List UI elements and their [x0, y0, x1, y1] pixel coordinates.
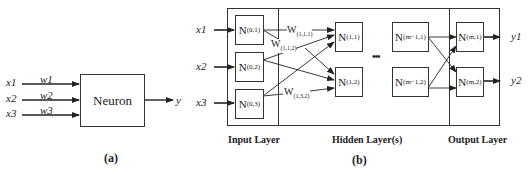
weight-w132: W(1,3,2) [284, 87, 309, 101]
node-n03: N(0,3) [235, 89, 264, 119]
node-n12: N(1,2) [335, 67, 363, 97]
weight-w112: W(1,1,2) [271, 39, 296, 53]
input-label-x3: x3 [6, 108, 16, 119]
neuron-label: Neuron [93, 93, 132, 109]
input-label-x1-b: x1 [196, 24, 206, 35]
node-n02: N(0,2) [235, 52, 264, 82]
label-output-layer: Output Layer [448, 134, 507, 145]
node-n01: N(0,1) [235, 15, 264, 45]
output-label-y2: y2 [511, 75, 521, 86]
weight-label-w3: w3 [40, 105, 53, 116]
node-nm12: N(m−1,2) [392, 67, 429, 97]
node-nm2: N(m,2) [456, 67, 484, 97]
ellipsis: ••• [372, 51, 380, 62]
node-nm11: N(m−1,1) [392, 22, 429, 52]
node-n11: N(1,1) [335, 22, 363, 52]
label-hidden-layers: Hidden Layer(s) [332, 134, 402, 145]
input-label-x2-b: x2 [196, 61, 206, 72]
label-input-layer: Input Layer [228, 134, 280, 145]
node-nm1: N(m,1) [456, 22, 484, 52]
input-label-x1: x1 [6, 77, 16, 88]
weight-label-w1: w1 [40, 74, 53, 85]
input-label-x3-b: x3 [196, 97, 206, 108]
caption-a: (a) [104, 153, 118, 164]
weight-w111: W(1,1,1) [287, 25, 312, 39]
weight-label-w2: w2 [40, 90, 53, 101]
caption-b: (b) [352, 155, 367, 166]
output-label-y: y [176, 95, 181, 106]
input-label-x2: x2 [6, 93, 16, 104]
neuron-box: Neuron [80, 74, 145, 127]
output-label-y1: y1 [511, 31, 521, 42]
